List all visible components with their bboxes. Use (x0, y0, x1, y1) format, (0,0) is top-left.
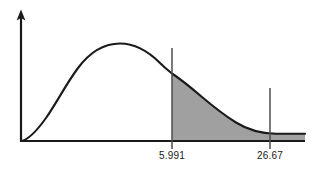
y-axis (17, 10, 26, 142)
test-statistic-label: 26.67 (240, 150, 300, 161)
shaded-tail-region (172, 74, 305, 142)
density-curve (21, 44, 305, 142)
chi-square-distribution-figure: 5.991 26.67 (0, 0, 312, 176)
critical-value-label: 5.991 (142, 150, 202, 161)
